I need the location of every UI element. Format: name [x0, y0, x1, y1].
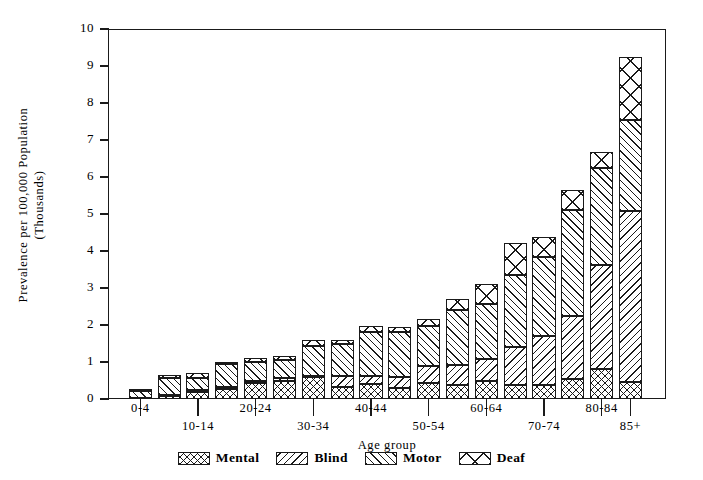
bar-segment-mental — [388, 388, 411, 399]
bar-segment-mental — [561, 379, 584, 399]
bar-segment-motor — [129, 391, 152, 398]
bar-segment-motor — [302, 346, 325, 376]
chart-figure: Prevalence per 100,000 Population (Thous… — [0, 0, 703, 480]
bar-segment-mental — [244, 383, 267, 399]
bar-stack — [302, 29, 325, 399]
legend-swatch-deaf — [459, 452, 491, 465]
x-axis-tick-label: 10-14 — [182, 419, 214, 434]
x-axis-tick-label: 80-84 — [586, 401, 618, 416]
bar-segment-blind — [475, 359, 498, 380]
bar-segment-motor — [215, 364, 238, 387]
bar-segment-deaf — [129, 389, 152, 391]
bar-segment-motor — [359, 332, 382, 376]
bar-segment-mental — [532, 385, 555, 399]
bar-segment-blind — [273, 378, 296, 381]
x-axis-tick-mark — [197, 399, 198, 416]
bar-segment-motor — [532, 257, 555, 336]
bar-stack — [359, 29, 382, 399]
bar-segment-deaf — [619, 57, 642, 120]
legend-swatch-mental — [178, 452, 210, 465]
bar-segment-motor — [561, 210, 584, 317]
legend-label: Deaf — [497, 450, 526, 466]
bar-segment-mental — [359, 384, 382, 399]
y-axis-tick-label: 1 — [87, 353, 94, 369]
bar-segment-motor — [158, 378, 181, 395]
y-axis-tick-label: 10 — [80, 20, 94, 36]
bar-segment-mental — [186, 392, 209, 399]
bar-segment-mental — [619, 382, 642, 399]
bar-segment-deaf — [359, 326, 382, 332]
bar-segment-mental — [417, 383, 440, 399]
bar-segment-deaf — [244, 358, 267, 361]
legend-swatch-motor — [365, 452, 397, 465]
legend-item-deaf[interactable]: Deaf — [459, 450, 526, 466]
bar-segment-motor — [446, 310, 469, 366]
x-axis-tick-label: 50-54 — [413, 419, 445, 434]
y-axis-tick-label: 8 — [87, 94, 94, 110]
legend-label: Blind — [314, 450, 348, 466]
x-axis-tick-label: 40-44 — [355, 401, 387, 416]
legend-item-mental[interactable]: Mental — [178, 450, 260, 466]
bar-segment-mental — [590, 369, 613, 399]
x-axis-tick-label: 70-74 — [528, 419, 560, 434]
bar-stack — [619, 29, 642, 399]
bar-stack — [129, 29, 152, 399]
bar-segment-blind — [359, 376, 382, 384]
bar-segment-deaf — [302, 340, 325, 346]
y-axis-title-line1: Prevalence per 100,000 Population — [16, 108, 30, 303]
y-axis-tick-label: 0 — [87, 390, 94, 406]
bar-segment-motor — [273, 360, 296, 378]
bar-stack — [561, 29, 584, 399]
bar-segment-mental — [331, 387, 354, 399]
y-axis-tick-label: 7 — [87, 131, 94, 147]
bar-segment-blind — [446, 365, 469, 385]
bar-stack — [417, 29, 440, 399]
bar-stack — [388, 29, 411, 399]
bar-segment-mental — [475, 381, 498, 400]
bar-stack — [590, 29, 613, 399]
bar-stack — [273, 29, 296, 399]
y-axis-title-line2: (Thousands) — [32, 108, 48, 303]
x-axis-tick-mark — [313, 399, 314, 416]
x-axis-tick-label: 60-64 — [470, 401, 502, 416]
x-axis-tick-label: 0-4 — [131, 401, 149, 416]
bar-segment-blind — [532, 336, 555, 385]
bar-stack — [186, 29, 209, 399]
bar-segment-motor — [417, 326, 440, 366]
y-axis-tick-label: 4 — [87, 242, 94, 258]
x-axis-tick-label: 85+ — [620, 419, 641, 434]
legend-label: Motor — [403, 450, 442, 466]
bar-segment-mental — [504, 385, 527, 399]
x-axis-tick-label: 30-34 — [297, 419, 329, 434]
bar-segment-deaf — [186, 373, 209, 378]
x-axis-tick-mark — [543, 399, 544, 416]
bar-stack — [504, 29, 527, 399]
bar-stack — [158, 29, 181, 399]
bar-segment-mental — [446, 385, 469, 399]
bar-segment-deaf — [331, 340, 354, 344]
bar-stack — [532, 29, 555, 399]
bar-segment-blind — [590, 265, 613, 369]
bar-segment-deaf — [446, 299, 469, 310]
bar-segment-deaf — [388, 327, 411, 332]
bar-segment-blind — [244, 381, 267, 384]
bar-segment-mental — [302, 377, 325, 399]
x-axis-tick-label: 20-24 — [240, 401, 272, 416]
y-axis-tick-label: 3 — [87, 279, 94, 295]
legend-item-blind[interactable]: Blind — [276, 450, 348, 466]
bar-segment-motor — [388, 332, 411, 377]
bar-segment-deaf — [532, 237, 555, 257]
bar-segment-blind — [619, 211, 642, 382]
bar-segment-deaf — [561, 190, 584, 210]
bar-stack — [475, 29, 498, 399]
legend-swatch-blind — [276, 452, 308, 465]
bar-segment-deaf — [417, 319, 440, 326]
y-axis-title: Prevalence per 100,000 Population (Thous… — [18, 40, 46, 370]
bar-segment-blind — [561, 316, 584, 379]
bar-segment-deaf — [273, 356, 296, 359]
bar-segment-mental — [215, 389, 238, 399]
legend-item-motor[interactable]: Motor — [365, 450, 442, 466]
bar-segment-deaf — [158, 375, 181, 378]
bar-segment-blind — [504, 347, 527, 385]
x-axis-tick-mark — [428, 399, 429, 416]
